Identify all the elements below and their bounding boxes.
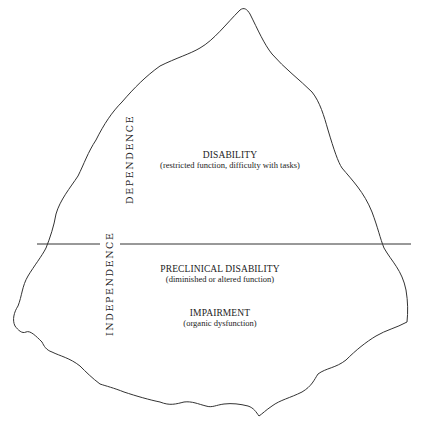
region-subtitle: (restricted function, difficulty with ta… xyxy=(150,161,310,171)
independence-label: INDEPENDENCE xyxy=(104,231,115,336)
region-disability: DISABILITY (restricted function, difficu… xyxy=(150,150,310,171)
region-preclinical-disability: PRECLINICAL DISABILITY (diminished or al… xyxy=(150,264,290,285)
iceberg-outline xyxy=(14,9,408,416)
dependence-label: DEPENDENCE xyxy=(124,115,135,204)
iceberg-diagram xyxy=(0,0,421,427)
region-subtitle: (organic dysfunction) xyxy=(160,319,280,329)
region-impairment: IMPAIRMENT (organic dysfunction) xyxy=(160,308,280,329)
region-subtitle: (diminished or altered function) xyxy=(150,275,290,285)
